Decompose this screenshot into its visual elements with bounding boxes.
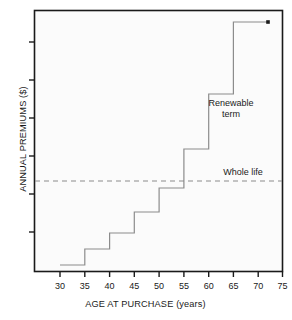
x-tick-label: 60 bbox=[198, 281, 220, 291]
x-tick-label: 70 bbox=[247, 281, 269, 291]
x-tick-label: 55 bbox=[173, 281, 195, 291]
x-tick-label: 75 bbox=[272, 281, 292, 291]
x-tick-label: 45 bbox=[123, 281, 145, 291]
renewable-term-endpoint-marker bbox=[266, 20, 270, 24]
x-axis-ticks bbox=[60, 272, 283, 278]
renewable-term-annotation: Renewable term bbox=[196, 98, 266, 120]
chart-figure: ANNUAL PREMIUMS ($) AGE AT PURCHASE (yea… bbox=[0, 0, 291, 320]
x-tick-label: 30 bbox=[49, 281, 71, 291]
x-tick-label: 65 bbox=[222, 281, 244, 291]
chart-plot-area bbox=[0, 0, 291, 320]
plot-frame bbox=[35, 11, 283, 272]
renewable-term-annotation-line2: term bbox=[196, 109, 266, 120]
x-tick-label: 40 bbox=[99, 281, 121, 291]
x-tick-label: 50 bbox=[148, 281, 170, 291]
whole-life-annotation: Whole life bbox=[212, 167, 274, 178]
y-axis-title: ANNUAL PREMIUMS ($) bbox=[18, 44, 28, 234]
x-tick-label: 35 bbox=[74, 281, 96, 291]
x-axis-title: AGE AT PURCHASE (years) bbox=[0, 299, 291, 309]
y-axis-ticks bbox=[29, 42, 35, 232]
renewable-term-annotation-line1: Renewable bbox=[196, 98, 266, 109]
